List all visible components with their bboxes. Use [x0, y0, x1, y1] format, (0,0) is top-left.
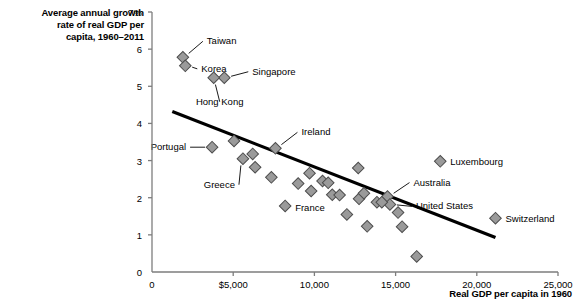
data-point	[292, 178, 304, 190]
data-point	[352, 162, 364, 174]
data-point	[249, 161, 261, 173]
data-point	[361, 221, 373, 233]
data-point	[266, 171, 278, 183]
data-point	[392, 207, 404, 219]
data-point	[434, 156, 446, 168]
data-point	[206, 141, 218, 153]
trend-line	[172, 112, 495, 238]
data-points	[177, 52, 501, 263]
data-point	[411, 251, 423, 263]
data-point	[490, 212, 502, 224]
data-point	[305, 185, 317, 197]
data-point	[341, 209, 353, 221]
data-point	[279, 200, 291, 212]
data-point	[334, 189, 346, 201]
plot-area	[0, 0, 580, 308]
data-point	[208, 72, 220, 84]
data-point	[304, 167, 316, 179]
data-point	[396, 221, 408, 233]
scatter-chart: Average annual growth rate of real GDP p…	[0, 0, 580, 308]
